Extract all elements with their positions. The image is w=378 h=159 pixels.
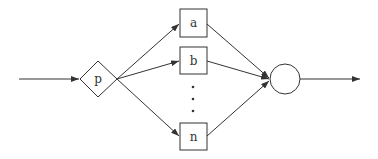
process-node-a: a: [180, 9, 207, 37]
parallel-flow-diagram: p a b n: [0, 0, 378, 159]
decision-node-p: p: [80, 61, 117, 97]
arrow-p-to-n: [117, 79, 179, 136]
merge-node: [270, 64, 300, 94]
arrow-p-to-b: [117, 61, 179, 79]
process-label-n: n: [190, 130, 198, 144]
process-node-b: b: [180, 47, 207, 74]
process-label-b: b: [190, 54, 198, 68]
arrow-n-to-merge: [207, 81, 269, 136]
process-label-a: a: [190, 16, 197, 30]
ellipsis-dots: [192, 86, 195, 113]
decision-label: p: [94, 72, 102, 86]
process-node-n: n: [180, 123, 207, 150]
arrow-p-to-a: [117, 24, 179, 79]
